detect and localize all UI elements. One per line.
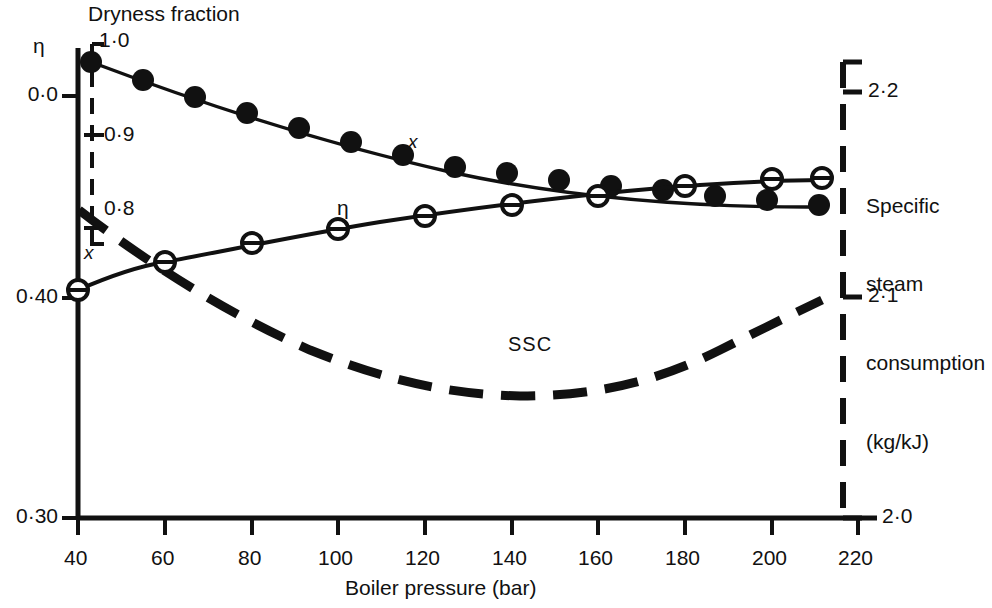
dryness-tick-label-0: 1·0 bbox=[99, 28, 129, 52]
ssc-axis-title-line-3: (kg/kJ) bbox=[866, 429, 992, 455]
x-axis-ticks bbox=[78, 518, 858, 535]
x-tick-label-7: 180 bbox=[665, 546, 700, 570]
x-tick-label-6: 160 bbox=[578, 546, 613, 570]
eta-tick-label-2: 0·30 bbox=[0, 504, 58, 528]
ssc-tick-label-0: 2·2 bbox=[868, 78, 898, 102]
ssc-axis-title-line-2: consumption bbox=[866, 350, 992, 376]
x-tick-label-8: 200 bbox=[752, 546, 787, 570]
dryness-tick-label-2: 0·8 bbox=[104, 196, 134, 220]
x-tick-label-3: 100 bbox=[318, 546, 353, 570]
ssc-tick-label-2: 2·0 bbox=[882, 504, 912, 528]
chart-root: Dryness fraction η 0·0 0·40 0·30 1·0 0·9… bbox=[0, 0, 992, 608]
x-tick-label-5: 140 bbox=[492, 546, 527, 570]
chart-plot-area bbox=[0, 0, 992, 608]
ssc-axis-title: Specific steam consumption (kg/kJ) bbox=[866, 140, 992, 508]
eta-axis-symbol: η bbox=[33, 34, 45, 58]
ssc-axis-title-line-1: steam bbox=[866, 271, 992, 297]
x-tick-label-2: 80 bbox=[238, 546, 261, 570]
series-ssc-curve bbox=[79, 210, 822, 396]
series-label-x: x bbox=[408, 131, 418, 153]
dryness-fraction-axis-title: Dryness fraction bbox=[88, 2, 240, 26]
x-axis-title: Boiler pressure (bar) bbox=[345, 576, 536, 600]
x-tick-label-0: 40 bbox=[64, 546, 87, 570]
dryness-axis-symbol: x bbox=[84, 242, 94, 264]
x-tick-label-1: 60 bbox=[151, 546, 174, 570]
ssc-axis-title-line-0: Specific bbox=[866, 193, 992, 219]
x-tick-label-4: 120 bbox=[405, 546, 440, 570]
series-label-eta: η bbox=[337, 196, 349, 220]
eta-tick-label-1: 0·40 bbox=[0, 284, 58, 308]
dryness-tick-label-1: 0·9 bbox=[104, 122, 134, 146]
eta-tick-label-0: 0·0 bbox=[0, 82, 58, 106]
x-tick-label-9: 220 bbox=[838, 546, 873, 570]
series-label-ssc: SSC bbox=[508, 333, 552, 356]
series-x-markers bbox=[80, 51, 830, 216]
